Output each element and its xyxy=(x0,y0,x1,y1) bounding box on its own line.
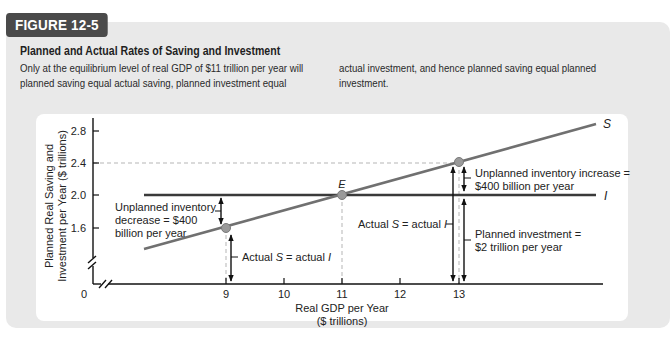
y-axis-label: Investment per Year ($ trillions) xyxy=(56,130,68,282)
y-tick-label: 2.0 xyxy=(71,189,86,201)
y-axis xyxy=(88,118,96,284)
right-gap-annotation: $400 billion per year xyxy=(475,180,574,192)
mid-equal-annotation: Actual S = actual I xyxy=(358,218,447,230)
saving-line-label: S xyxy=(603,117,611,131)
x-tick-label: 12 xyxy=(394,288,406,300)
y-tick-label: 1.6 xyxy=(71,222,86,234)
right-planned-annotation: Planned investment = xyxy=(475,228,581,240)
right-planned-arrow xyxy=(464,199,471,281)
equilibrium-point xyxy=(338,191,347,200)
left-gap-annotation: decrease = $400 xyxy=(115,214,197,226)
y-tick-label: 2.8 xyxy=(71,125,86,137)
left-gap-annotation: Unplanned inventory xyxy=(115,201,216,213)
x-axis-label: ($ trillions) xyxy=(317,315,368,327)
x-tick-label: 9 xyxy=(223,288,229,300)
equilibrium-label: E xyxy=(338,178,346,190)
right-planned-annotation: $2 trillion per year xyxy=(475,241,563,253)
chart: 2.8 2.4 2.0 1.6 0 9 10 11 12 13 Real GDP… xyxy=(0,0,672,354)
right-gap-arrow xyxy=(464,167,471,191)
right-gap-annotation: Unplanned inventory increase = xyxy=(475,167,630,179)
y-tick-label: 2.4 xyxy=(71,157,86,169)
x-tick-label: 11 xyxy=(336,288,347,300)
y-ticks xyxy=(93,131,99,228)
x-axis-label: Real GDP per Year xyxy=(295,302,389,314)
left-equal-annotation: Actual S = actual I xyxy=(242,251,331,263)
mid-equal-arrow xyxy=(446,167,453,281)
left-gap-annotation: billion per year xyxy=(115,227,187,239)
point-gdp-9 xyxy=(222,224,231,233)
origin-label: 0 xyxy=(81,288,87,300)
x-tick-label: 10 xyxy=(278,288,290,300)
point-gdp-13 xyxy=(455,158,464,167)
x-tick-label: 13 xyxy=(453,288,465,300)
left-equal-arrow xyxy=(231,235,238,281)
investment-line-label: I xyxy=(604,189,608,203)
y-axis-label: Planned Real Saving and xyxy=(43,144,55,268)
x-ticks xyxy=(226,278,459,284)
x-axis xyxy=(93,280,603,288)
